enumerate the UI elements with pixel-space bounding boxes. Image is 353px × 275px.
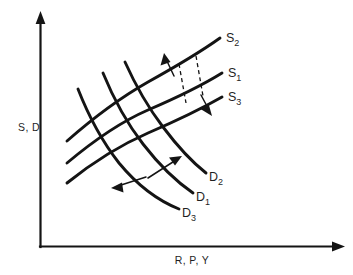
dashed-connector-left xyxy=(179,64,186,103)
supply-curve-s3 xyxy=(67,97,222,183)
supply-curves-group xyxy=(67,38,222,183)
figure-canvas: S2 S1 S3 D2 D1 D3 S, D R, P, Y xyxy=(0,0,353,275)
dashed-connector-right xyxy=(196,56,203,96)
demand-curve-d2 xyxy=(125,62,206,173)
demand-labels-group: D2 D1 D3 xyxy=(182,170,223,223)
supply-labels-group: S2 S1 S3 xyxy=(226,31,241,107)
curve-label-d1: D1 xyxy=(196,190,210,207)
supply-demand-diagram: S2 S1 S3 D2 D1 D3 S, D R, P, Y xyxy=(0,0,353,275)
curve-label-s2: S2 xyxy=(226,31,239,48)
curve-label-s1: S1 xyxy=(228,66,241,83)
y-axis-arrowhead xyxy=(36,11,46,24)
y-axis-label: S, D xyxy=(18,121,40,133)
demand-shift-right-arrow xyxy=(148,156,182,178)
curve-label-s3: S3 xyxy=(228,90,241,107)
supply-shift-down-arrow xyxy=(201,95,213,116)
x-axis-arrowhead xyxy=(332,242,345,252)
x-axis-label: R, P, Y xyxy=(175,254,210,266)
demand-curve-d3 xyxy=(78,89,179,209)
curve-label-d3: D3 xyxy=(182,206,196,223)
supply-curve-s2 xyxy=(67,38,220,141)
curve-label-d2: D2 xyxy=(209,170,223,187)
